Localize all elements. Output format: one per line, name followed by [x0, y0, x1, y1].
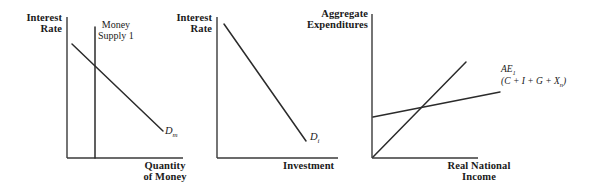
panel3-y-axis-title: Aggregate Expenditures	[288, 8, 368, 31]
panel-investment-axes	[217, 17, 338, 158]
money-supply-annotation: Money Supply 1	[98, 19, 134, 41]
panel-ae-axes	[372, 14, 478, 158]
ae-components: (C + I + G + X	[501, 76, 560, 86]
ae-label-subscript: 1	[513, 69, 516, 76]
investment-demand-curve	[224, 24, 306, 141]
ae-schedule-line	[373, 92, 500, 117]
ae-label-main: AE	[501, 64, 513, 74]
investment-demand-curve-label: Di	[310, 131, 320, 146]
money-demand-subscript: m	[173, 131, 178, 139]
money-demand-curve	[72, 44, 163, 131]
ae-schedule-label: AE1 (C + I + G + Xn)	[501, 64, 566, 89]
panel1-y-axis-title: Interest Rate	[6, 12, 62, 35]
panel2-y-axis-title: Interest Rate	[156, 12, 212, 35]
money-demand-curve-label: Dm	[165, 125, 178, 140]
figure-canvas: Interest Rate Money Supply 1 Dm Quantity…	[0, 0, 593, 189]
investment-demand-subscript: i	[318, 137, 320, 145]
forty-five-degree-line	[373, 62, 466, 157]
panel3-x-axis-title: Real National Income	[434, 160, 524, 183]
panel2-x-axis-title: Investment	[283, 160, 334, 171]
ae-components-close: )	[563, 76, 566, 86]
panel1-x-axis-title: Quantity of Money	[128, 160, 202, 183]
